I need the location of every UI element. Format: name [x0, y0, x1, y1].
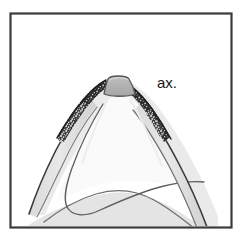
figure-illustration: ax.: [0, 0, 243, 236]
apex-label: ax.: [157, 74, 177, 91]
figure-panel: B: [0, 0, 243, 236]
